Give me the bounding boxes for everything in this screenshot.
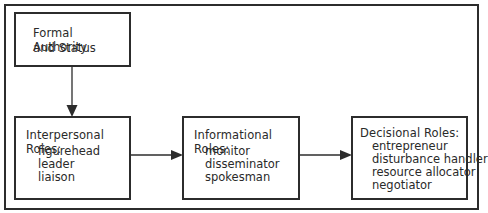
- arrowhead-right-icon: [340, 150, 352, 160]
- arrowhead-right-icon: [171, 150, 183, 160]
- arrowhead-down-icon: [67, 105, 78, 117]
